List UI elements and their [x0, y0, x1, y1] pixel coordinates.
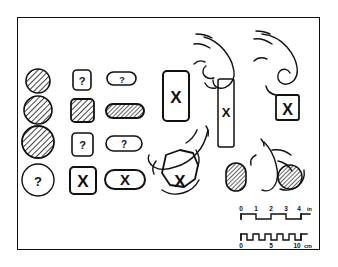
- plate-border: [17, 17, 320, 250]
- figure-plate: ? ? ? X ? ? X X: [0, 0, 338, 267]
